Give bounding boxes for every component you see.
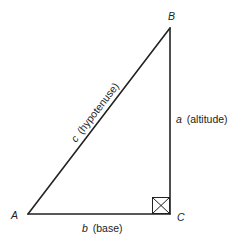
base-label: b (base)	[82, 222, 123, 234]
vertex-label-c: C	[177, 211, 185, 223]
hypotenuse-desc: (hypotenuse)	[74, 80, 121, 136]
vertex-label-a: A	[10, 209, 18, 221]
vertex-label-b: B	[168, 10, 175, 22]
right-triangle-diagram: B A C a (altitude) b (base) c (hypotenus…	[0, 0, 241, 245]
base-desc: (base)	[93, 222, 123, 234]
altitude-label: a (altitude)	[176, 113, 228, 125]
hypotenuse-label: c (hypotenuse)	[68, 80, 121, 144]
altitude-var: a	[176, 113, 182, 125]
base-var: b	[82, 222, 88, 234]
triangle	[28, 28, 170, 214]
altitude-desc: (altitude)	[187, 113, 228, 125]
right-angle-marker-icon	[153, 198, 170, 214]
hypotenuse-var: c	[68, 132, 81, 144]
hypotenuse-line	[28, 28, 170, 214]
